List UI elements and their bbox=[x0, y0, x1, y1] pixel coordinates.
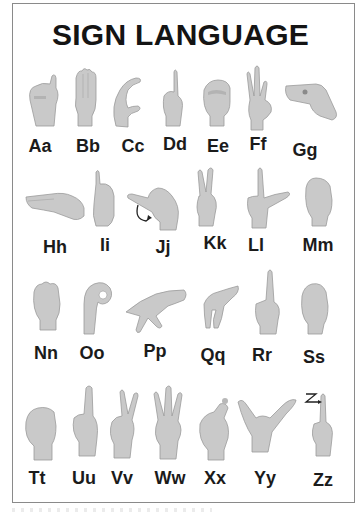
hand-sign-t-icon bbox=[26, 408, 56, 461]
letter-label-w: Ww bbox=[155, 468, 186, 489]
hand-sign-f-icon bbox=[247, 66, 271, 130]
hand-sign-a-icon bbox=[30, 75, 58, 126]
footer-residue bbox=[12, 508, 212, 512]
hand-sign-x-icon bbox=[200, 398, 229, 460]
letter-label-s: Ss bbox=[303, 347, 325, 368]
hand-sign-g-icon bbox=[286, 84, 337, 120]
letter-label-t: Tt bbox=[29, 468, 46, 489]
letter-label-h: Hh bbox=[43, 237, 67, 258]
letter-label-p: Pp bbox=[143, 341, 166, 362]
letter-label-z: Zz bbox=[313, 470, 333, 491]
hand-sign-d-icon bbox=[163, 70, 182, 126]
hand-sign-v-icon bbox=[110, 390, 138, 458]
letter-label-j: Jj bbox=[155, 237, 170, 258]
letter-label-m: Mm bbox=[303, 235, 334, 256]
hand-sign-s-icon bbox=[302, 284, 328, 334]
letter-label-g: Gg bbox=[293, 140, 318, 161]
hand-sign-e-icon bbox=[204, 80, 230, 126]
hand-sign-l-icon bbox=[248, 168, 290, 228]
hand-sign-p-icon bbox=[126, 290, 186, 333]
letter-label-e: Ee bbox=[207, 136, 229, 157]
hand-signs-illustration bbox=[0, 0, 361, 521]
letter-label-u: Uu bbox=[72, 468, 96, 489]
hand-sign-k-icon bbox=[197, 168, 216, 226]
hand-sign-u-icon bbox=[73, 386, 97, 456]
letter-label-r: Rr bbox=[252, 345, 272, 366]
letter-label-x: Xx bbox=[204, 468, 226, 489]
hand-sign-z-icon bbox=[306, 394, 332, 456]
letter-label-v: Vv bbox=[111, 468, 133, 489]
letter-label-n: Nn bbox=[34, 343, 58, 364]
letter-label-d: Dd bbox=[163, 134, 187, 155]
hand-sign-n-icon bbox=[34, 282, 60, 330]
hand-sign-o-icon bbox=[84, 283, 112, 334]
hand-sign-b-icon bbox=[75, 69, 96, 126]
letter-label-o: Oo bbox=[80, 343, 105, 364]
letter-label-k: Kk bbox=[203, 233, 226, 254]
letter-label-l: Ll bbox=[248, 235, 264, 256]
hand-sign-j-icon bbox=[128, 188, 179, 230]
hand-sign-y-icon bbox=[238, 400, 296, 452]
letter-label-f: Ff bbox=[250, 134, 267, 155]
hand-sign-q-icon bbox=[204, 286, 238, 328]
letter-label-i: Ii bbox=[100, 235, 110, 256]
hand-sign-i-icon bbox=[93, 171, 114, 227]
hand-sign-h-icon bbox=[26, 193, 84, 219]
letter-label-y: Yy bbox=[254, 468, 276, 489]
hand-sign-w-icon bbox=[154, 386, 182, 459]
hand-sign-c-icon bbox=[114, 78, 141, 127]
letter-label-b: Bb bbox=[76, 136, 100, 157]
hand-sign-m-icon bbox=[306, 178, 332, 226]
letter-label-q: Qq bbox=[201, 345, 226, 366]
letter-label-c: Cc bbox=[121, 136, 144, 157]
letter-label-a: Aa bbox=[28, 136, 51, 157]
hand-sign-r-icon bbox=[256, 270, 280, 334]
